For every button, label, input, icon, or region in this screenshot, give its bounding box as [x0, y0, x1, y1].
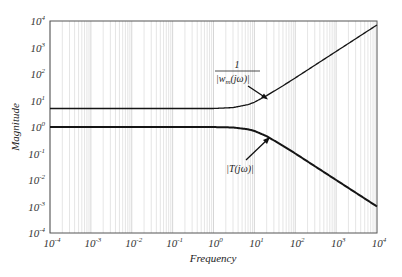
y-tick-label: 103	[31, 41, 46, 54]
y-tick-label: 104	[31, 14, 46, 27]
x-tick-label: 10-2	[125, 236, 142, 249]
y-axis-label: Magnitude	[9, 103, 21, 152]
y-tick-label: 102	[31, 67, 46, 80]
x-tick-label: 101	[249, 236, 264, 249]
y-tick-label: 10-2	[28, 173, 45, 186]
y-tick-label: 100	[31, 120, 46, 133]
x-tick-label: 100	[208, 236, 223, 249]
x-axis-label: Frequency	[189, 252, 237, 264]
x-axis-ticks: 10-410-310-210-1100101102103104	[44, 236, 387, 249]
annotation-t-label: |T(jω)|	[226, 163, 254, 175]
y-tick-label: 10-3	[28, 200, 45, 213]
x-tick-label: 10-1	[166, 236, 183, 249]
annotation-numerator: 1	[235, 59, 240, 70]
bode-magnitude-chart: 10-410-310-210-1100101102103104 10410310…	[0, 0, 402, 277]
annotation-inverse-weight: 1 |wm(jω)|	[215, 59, 268, 100]
x-tick-label: 104	[372, 236, 387, 249]
y-axis-ticks: 10410310210110010-110-210-310-4	[28, 14, 45, 239]
x-tick-label: 103	[331, 236, 346, 249]
y-tick-label: 10-1	[28, 147, 45, 160]
y-tick-label: 101	[31, 94, 46, 107]
arrow-line-t	[246, 139, 268, 160]
x-tick-label: 10-4	[44, 236, 61, 249]
x-tick-label: 102	[290, 236, 305, 249]
x-tick-label: 10-3	[84, 236, 101, 249]
